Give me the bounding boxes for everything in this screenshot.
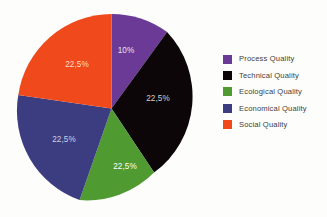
- legend-item[interactable]: Economical Quality: [223, 100, 327, 116]
- legend-color-swatch: [223, 104, 232, 113]
- legend-item-label: Ecological Quality: [239, 88, 302, 96]
- pie-slice-label: 22,5%: [146, 94, 170, 103]
- pie-plot-area: 10%22,5%22,5%22,5%22,5%: [15, 11, 207, 206]
- pie-slice-label: 22,5%: [113, 162, 137, 171]
- legend-color-swatch: [223, 71, 232, 80]
- legend-color-swatch: [223, 55, 232, 64]
- pie-svg: 10%22,5%22,5%22,5%22,5%: [15, 11, 207, 206]
- legend-item-label: Process Quality: [239, 55, 294, 63]
- pie-slice-label: 22,5%: [65, 60, 89, 69]
- legend-item-label: Technical Quality: [239, 72, 299, 80]
- legend-item-label: Social Quality: [239, 121, 288, 129]
- pie-slice-label: 22,5%: [52, 135, 76, 144]
- legend-item[interactable]: Process Quality: [223, 51, 327, 67]
- legend-item-label: Economical Quality: [239, 105, 307, 113]
- legend-color-swatch: [223, 87, 232, 96]
- pie-chart: 10%22,5%22,5%22,5%22,5% Process QualityT…: [0, 0, 327, 217]
- pie-slice-label: 10%: [118, 46, 135, 55]
- chart-legend: Process QualityTechnical QualityEcologic…: [223, 51, 327, 133]
- legend-color-swatch: [223, 120, 232, 129]
- legend-item[interactable]: Technical Quality: [223, 67, 327, 83]
- legend-item[interactable]: Ecological Quality: [223, 84, 327, 100]
- legend-item[interactable]: Social Quality: [223, 117, 327, 133]
- pie-slices: [17, 14, 193, 200]
